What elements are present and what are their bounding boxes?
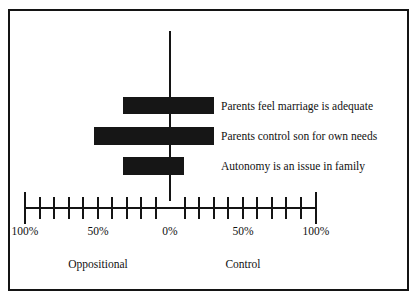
axis-tick-minor (53, 197, 55, 208)
axis-tick-major-neg50 (97, 197, 99, 219)
direction-label-oppositional: Oppositional (68, 258, 127, 270)
axis-tick-minor-lower (155, 208, 157, 219)
axis-tick-minor-lower (39, 208, 41, 219)
bar-parents-control-son-for-own-needs (94, 127, 214, 145)
axis-tick-minor-lower (213, 208, 215, 219)
axis-tick-minor (140, 197, 142, 208)
axis-tick-minor-lower (300, 208, 302, 219)
bar-label-1: Parents control son for own needs (221, 130, 377, 142)
axis-tick-minor (198, 197, 200, 208)
axis-tick-minor-lower (82, 208, 84, 219)
axis-tick-minor (300, 197, 302, 208)
axis-tick-minor-lower (140, 208, 142, 219)
bar-autonomy-is-an-issue-in-family (123, 157, 184, 175)
axis-tick-minor-lower (271, 208, 273, 219)
bar-parents-feel-marriage-is-adequate (123, 97, 214, 114)
axis-tick-minor-lower (68, 208, 70, 219)
axis-tick-end-right (315, 192, 317, 224)
axis-tick-minor-lower (126, 208, 128, 219)
chart-plot-area: Parents feel marriage is adequate Parent… (10, 11, 407, 289)
x-tick-label-neg50: 50% (87, 226, 108, 238)
axis-tick-minor (111, 197, 113, 208)
axis-tick-minor-lower (111, 208, 113, 219)
axis-tick-minor (39, 197, 41, 208)
axis-tick-minor (155, 197, 157, 208)
axis-tick-minor-lower (184, 208, 186, 219)
axis-tick-minor (256, 197, 258, 208)
zero-reference-line (169, 31, 171, 201)
axis-tick-minor-lower (198, 208, 200, 219)
axis-tick-minor (227, 197, 229, 208)
x-tick-label-neg100: 100% (12, 226, 39, 238)
axis-tick-minor (271, 197, 273, 208)
axis-tick-end-left (24, 192, 26, 224)
x-tick-label-pos50: 50% (232, 226, 253, 238)
axis-tick-minor (82, 197, 84, 208)
axis-tick-minor (126, 197, 128, 208)
axis-tick-minor (213, 197, 215, 208)
axis-tick-major-pos50 (242, 197, 244, 219)
axis-tick-minor-lower (53, 208, 55, 219)
axis-tick-minor (285, 197, 287, 208)
axis-tick-minor (184, 197, 186, 208)
axis-tick-minor-lower (227, 208, 229, 219)
direction-label-control: Control (225, 258, 260, 270)
bar-label-0: Parents feel marriage is adequate (221, 100, 373, 112)
axis-tick-minor-lower (256, 208, 258, 219)
axis-tick-minor-lower (285, 208, 287, 219)
chart-frame: Parents feel marriage is adequate Parent… (8, 9, 409, 291)
bar-label-2: Autonomy is an issue in family (221, 160, 365, 172)
x-tick-label-zero: 0% (162, 226, 177, 238)
x-tick-label-pos100: 100% (303, 226, 330, 238)
axis-tick-minor (68, 197, 70, 208)
